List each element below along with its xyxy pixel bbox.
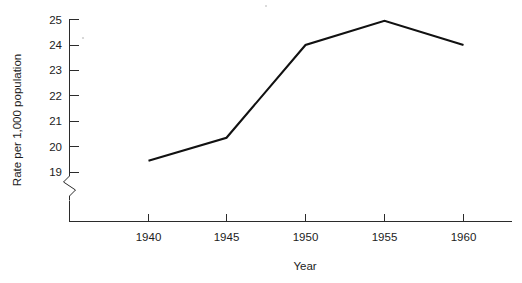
y-tick-label: 25 (49, 14, 62, 26)
y-axis-title: Rate per 1,000 population (11, 54, 23, 186)
y-tick-label: 19 (49, 166, 62, 178)
data-series-line (149, 21, 464, 161)
y-tick-label: 22 (49, 90, 62, 102)
y-axis-break-icon (64, 173, 76, 201)
x-tick-label: 1940 (136, 231, 162, 243)
x-tick-label: 1950 (293, 231, 319, 243)
x-axis-title: Year (293, 260, 316, 272)
x-tick-label: 1955 (372, 231, 398, 243)
x-tick-label: 1960 (451, 231, 477, 243)
line-chart: 25 24 23 22 21 20 19 1940 1945 1950 1955… (0, 0, 522, 283)
y-tick-label: 23 (49, 64, 62, 76)
y-tick-marks (70, 20, 79, 173)
x-tick-marks (149, 214, 464, 222)
y-tick-label: 20 (49, 141, 62, 153)
chart-canvas: 25 24 23 22 21 20 19 1940 1945 1950 1955… (0, 0, 522, 283)
x-tick-label: 1945 (214, 231, 240, 243)
y-tick-label: 21 (49, 115, 62, 127)
y-tick-label: 24 (49, 39, 62, 51)
paper-speck (265, 5, 267, 7)
paper-speck (82, 37, 84, 39)
